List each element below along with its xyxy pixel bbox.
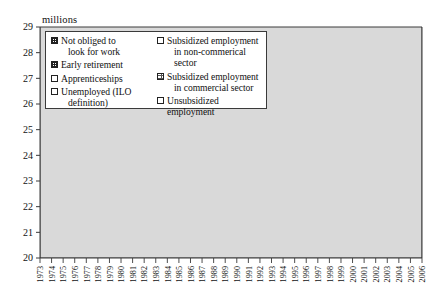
svg-text:1979: 1979 <box>106 266 115 282</box>
legend-label-unemployed: Unemployed (ILOdefinition) <box>61 86 131 108</box>
svg-text:1998: 1998 <box>326 266 335 282</box>
x-axis-ticks: 1973197419751976197719781979198019811982… <box>36 258 427 282</box>
legend-label-unsubsidized: Unsubsidized employment <box>167 95 267 117</box>
svg-text:1996: 1996 <box>302 266 311 282</box>
svg-text:26: 26 <box>23 98 33 109</box>
svg-text:1983: 1983 <box>152 266 161 282</box>
legend-item-unsubsidized: Unsubsidized employment <box>157 95 267 117</box>
svg-text:1987: 1987 <box>198 266 207 282</box>
legend-item-early-retirement: Early retirement <box>51 59 155 70</box>
legend-item-subsidized-commercial: Subsidized employmentin commercial secto… <box>157 71 267 93</box>
legend-item-apprenticeships: Apprenticeships <box>51 73 155 84</box>
svg-text:1990: 1990 <box>233 266 242 282</box>
legend-label-subsidized-non-commercial: Subsidized employmentin non-commerical s… <box>167 35 267 69</box>
legend-swatch-solid-gray-icon <box>157 97 164 104</box>
svg-text:1997: 1997 <box>314 266 323 282</box>
svg-text:1977: 1977 <box>83 266 92 282</box>
svg-text:2004: 2004 <box>395 266 404 282</box>
svg-text:1995: 1995 <box>291 266 300 282</box>
svg-text:29: 29 <box>23 21 33 32</box>
legend-label-subsidized-commercial: Subsidized employmentin commercial secto… <box>167 71 258 93</box>
svg-text:1980: 1980 <box>117 266 126 282</box>
svg-text:2002: 2002 <box>372 266 381 282</box>
y-axis-ticks: 20212223242526272829 <box>23 21 40 263</box>
legend-label-early-retirement: Early retirement <box>61 59 123 70</box>
legend-swatch-diagonal-hatch-icon <box>157 73 164 80</box>
svg-text:1992: 1992 <box>256 266 265 282</box>
legend-swatch-dense-grid-icon <box>51 37 58 44</box>
svg-text:20: 20 <box>23 252 33 263</box>
svg-text:27: 27 <box>23 73 33 84</box>
svg-text:1984: 1984 <box>164 266 173 282</box>
svg-text:25: 25 <box>23 124 33 135</box>
legend-label-apprenticeships: Apprenticeships <box>61 73 123 84</box>
svg-text:2003: 2003 <box>383 266 392 282</box>
svg-text:21: 21 <box>23 227 33 238</box>
svg-text:2006: 2006 <box>418 266 427 282</box>
svg-text:22: 22 <box>23 201 33 212</box>
svg-text:1973: 1973 <box>36 266 45 282</box>
svg-text:1981: 1981 <box>129 266 138 282</box>
svg-text:1975: 1975 <box>59 266 68 282</box>
svg-text:1978: 1978 <box>94 266 103 282</box>
svg-text:23: 23 <box>23 175 33 186</box>
chart-legend: Not obliged tolook for work Early retire… <box>45 31 267 109</box>
legend-swatch-fine-dotted-icon <box>157 37 164 44</box>
svg-text:1989: 1989 <box>221 266 230 282</box>
svg-text:2005: 2005 <box>407 266 416 282</box>
svg-text:1993: 1993 <box>268 266 277 282</box>
svg-text:1994: 1994 <box>279 266 288 282</box>
legend-label-not-obliged: Not obliged tolook for work <box>61 35 120 57</box>
svg-text:1988: 1988 <box>210 266 219 282</box>
legend-swatch-horizontal-lines-icon <box>51 88 58 95</box>
legend-swatch-apprenticeships-icon <box>51 75 58 82</box>
legend-item-unemployed: Unemployed (ILOdefinition) <box>51 86 155 108</box>
svg-text:1991: 1991 <box>245 266 254 282</box>
svg-text:1999: 1999 <box>337 266 346 282</box>
legend-item-not-obliged: Not obliged tolook for work <box>51 35 155 57</box>
legend-swatch-cross-hatch-icon <box>51 61 58 68</box>
svg-text:24: 24 <box>23 150 33 161</box>
chart-figure: millions <box>0 0 436 300</box>
svg-text:2000: 2000 <box>349 266 358 282</box>
svg-text:2001: 2001 <box>360 266 369 282</box>
svg-text:1974: 1974 <box>48 266 57 282</box>
svg-text:1976: 1976 <box>71 266 80 282</box>
legend-item-subsidized-non-commercial: Subsidized employmentin non-commerical s… <box>157 35 267 69</box>
svg-text:1982: 1982 <box>140 266 149 282</box>
svg-text:1986: 1986 <box>187 266 196 282</box>
svg-text:1985: 1985 <box>175 266 184 282</box>
svg-text:28: 28 <box>23 47 33 58</box>
